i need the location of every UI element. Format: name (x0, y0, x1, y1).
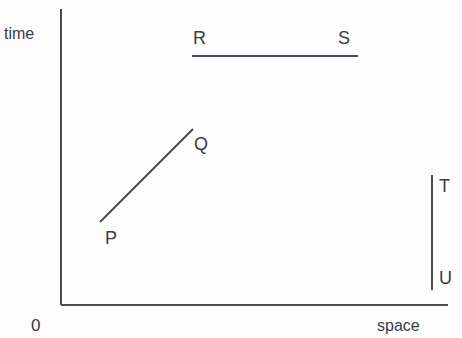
point-label-p: P (105, 229, 117, 247)
point-label-u: U (439, 269, 452, 287)
diagram-canvas (0, 0, 462, 338)
point-label-t: T (439, 177, 450, 195)
spacetime-diagram-figure: time space 0 R S Q P T U (0, 0, 462, 338)
segment-pq (100, 129, 193, 222)
origin-label: 0 (31, 317, 40, 334)
y-axis-label: time (4, 26, 34, 42)
point-label-s: S (338, 29, 350, 47)
point-label-r: R (193, 29, 206, 47)
point-label-q: Q (194, 135, 208, 153)
x-axis-label: space (377, 318, 420, 334)
